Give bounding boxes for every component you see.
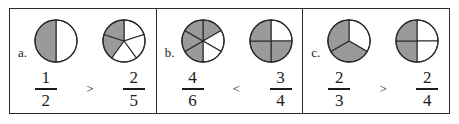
pie-2-of-3 [326,18,372,64]
fraction-denominator: 5 [130,91,139,110]
comparison-operator: > [80,81,100,97]
fraction: 23 [321,69,357,110]
fraction-bar [416,88,438,89]
fraction-denominator: 4 [276,91,285,110]
pie-2-of-4 [394,18,440,64]
problem-panel: b.46<34 [156,9,303,113]
comparison-expression: 12>25 [10,67,156,111]
pie-3-of-4 [248,18,294,64]
fraction-comparison-worksheet: a.12>25b.46<34c.23>24 [9,8,450,114]
fraction-numerator: 2 [335,69,344,88]
fraction-numerator: 3 [276,69,285,88]
fraction-bar [270,88,292,89]
pie-2-of-5 [101,18,147,64]
pie-slice [56,20,77,62]
comparison-operator: > [373,81,393,97]
fraction-numerator: 2 [423,69,432,88]
fraction-bar [182,88,204,89]
comparison-operator: < [227,81,247,97]
pie-figure-row [157,15,303,67]
pie-figure-row [303,15,449,67]
pie-figure-row [10,15,156,67]
pie-slice [35,20,56,62]
comparison-expression: 23>24 [303,67,449,111]
fraction-bar [35,88,57,89]
fraction-numerator: 1 [42,69,51,88]
fraction: 25 [116,69,152,110]
fraction-bar [123,88,145,89]
fraction: 24 [409,69,445,110]
fraction: 34 [263,69,299,110]
fraction: 12 [28,69,64,110]
comparison-expression: 46<34 [157,67,303,111]
fraction-bar [328,88,350,89]
pie-1-of-2 [33,18,79,64]
fraction-numerator: 4 [188,69,197,88]
fraction-denominator: 6 [188,91,197,110]
fraction-denominator: 4 [423,91,432,110]
fraction-denominator: 2 [42,91,51,110]
fraction: 46 [175,69,211,110]
fraction-numerator: 2 [130,69,139,88]
problem-panel: a.12>25 [10,9,156,113]
fraction-denominator: 3 [335,91,344,110]
pie-4-of-6 [180,18,226,64]
problem-panel: c.23>24 [302,9,449,113]
